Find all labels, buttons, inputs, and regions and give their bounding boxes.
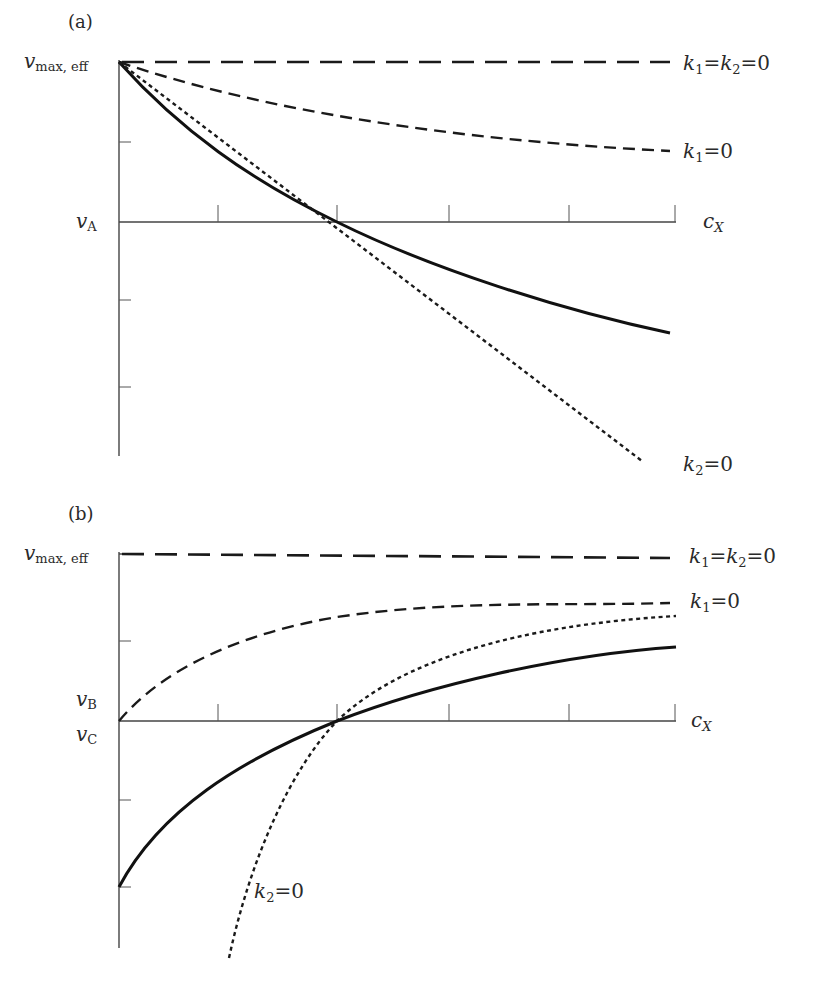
panel-b-series-k1k2-zero <box>122 554 670 558</box>
panel-b-series-k1-zero <box>119 603 670 721</box>
panel-a-label-k2-zero: k2=0 <box>683 452 733 478</box>
panel-a-label: (a) <box>68 11 93 32</box>
panel-a-vmax-label: vmax, eff <box>24 49 90 74</box>
panel-a-series-general <box>119 62 670 333</box>
figure: (a) vmax, eff vA cX <box>0 0 822 983</box>
panel-a-label-k1k2-zero: k1=k2=0 <box>683 51 770 77</box>
panel-a-vA-label: vA <box>76 209 97 234</box>
panel-b-label: (b) <box>68 503 94 524</box>
panel-b-series-general <box>119 647 676 887</box>
panel-a-x-label: cX <box>703 209 724 235</box>
panel-a: (a) vmax, eff vA cX <box>24 11 770 478</box>
panel-b-x-label: cX <box>691 708 712 734</box>
panel-a-label-k1-zero: k1=0 <box>683 139 733 165</box>
panel-b-vC-label: vC <box>76 722 97 747</box>
panel-b-vmax-label: vmax, eff <box>24 541 90 566</box>
panel-b-label-k1k2-zero: k1=k2=0 <box>689 544 776 570</box>
panel-b-vB-label: vB <box>76 687 97 712</box>
panel-b: (b) vmax, eff vB vC cX <box>24 503 776 958</box>
panel-b-label-k1-zero: k1=0 <box>690 589 740 615</box>
panel-b-label-k2-zero: k2=0 <box>254 879 304 905</box>
panel-b-series-k2-zero <box>229 616 676 958</box>
